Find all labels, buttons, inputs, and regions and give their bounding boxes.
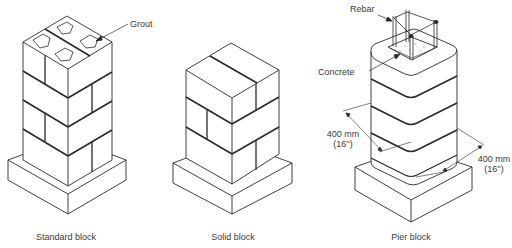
standard-block-drawing xyxy=(8,16,128,214)
diagram-canvas xyxy=(0,0,512,248)
solid-block-drawing xyxy=(173,43,292,214)
left-dimension-imperial: (16'') xyxy=(323,139,363,149)
right-dimension-imperial: (16'') xyxy=(474,164,512,174)
pier-block-caption: Pier block xyxy=(361,232,461,242)
grout-callout-label: Grout xyxy=(130,19,153,29)
pier-block-drawing xyxy=(343,10,484,222)
left-dimension-metric: 400 mm xyxy=(323,129,363,139)
rebar-callout-label: Rebar xyxy=(350,4,375,14)
right-dimension-metric: 400 mm xyxy=(474,154,512,164)
solid-block-caption: Solid block xyxy=(183,232,283,242)
concrete-callout-label: Concrete xyxy=(318,67,355,77)
standard-block-caption: Standard block xyxy=(16,232,116,242)
left-dimension-label: 400 mm (16'') xyxy=(323,129,363,149)
right-dimension-label: 400 mm (16'') xyxy=(474,154,512,174)
